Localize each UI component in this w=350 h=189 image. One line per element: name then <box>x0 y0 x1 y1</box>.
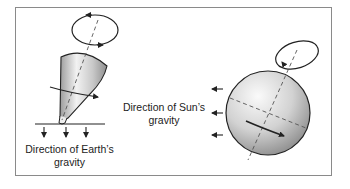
earth-gravity-label-line1: Direction of Earth’s <box>22 143 117 156</box>
cone-body <box>60 53 107 119</box>
earth-gravity-label: Direction of Earth’s gravity <box>22 143 117 169</box>
precession-orbit-icon <box>272 36 322 74</box>
precession-orbit-icon <box>72 15 118 45</box>
earth-gravity-label-line2: gravity <box>22 156 117 169</box>
sphere-body <box>226 71 310 155</box>
sun-gravity-arrows <box>212 89 223 135</box>
sun-gravity-label: Direction of Sun’s gravity <box>116 101 212 127</box>
sun-gravity-label-line1: Direction of Sun’s <box>116 101 212 114</box>
sun-gravity-label-line2: gravity <box>116 114 212 127</box>
spinning-top <box>35 15 118 137</box>
earth-gravity-arrows <box>44 127 86 137</box>
spinning-sphere <box>212 36 322 160</box>
